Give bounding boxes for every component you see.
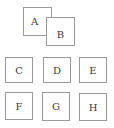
box-g: G [42, 92, 70, 121]
box-d: D [43, 57, 71, 83]
box-d-label: D [53, 65, 61, 76]
box-h-label: H [89, 102, 98, 113]
box-f: F [5, 92, 33, 120]
box-e-label: E [89, 65, 96, 76]
box-b: B [46, 17, 75, 46]
box-e: E [79, 57, 107, 83]
box-g-label: G [52, 101, 60, 112]
box-c-label: C [15, 65, 23, 76]
box-a-label: A [31, 16, 38, 27]
box-h: H [79, 93, 107, 121]
box-c: C [5, 57, 33, 83]
box-f-label: F [16, 101, 23, 112]
box-b-label: B [57, 29, 64, 40]
